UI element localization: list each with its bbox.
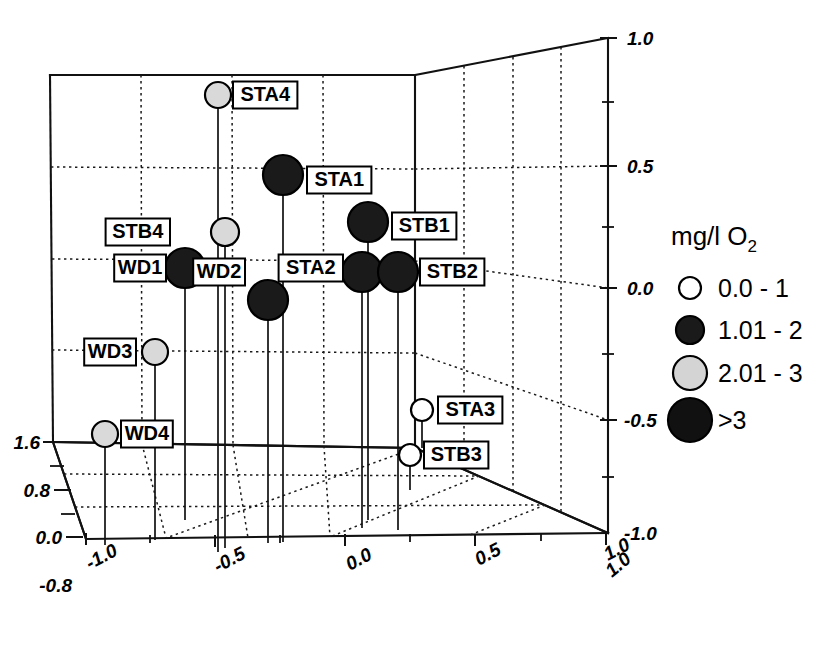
point-label-text: STB2 [427,260,478,282]
point-label-wd3: WD3 [84,339,136,366]
legend-title-main: mg/l O [671,221,748,251]
floor-gridline-d1 [142,444,166,538]
legend: mg/l O2 0.0 - 11.01 - 22.01 - 3>3 [668,221,803,442]
floor-gridline-r3 [470,505,545,535]
ticklabel-x--0.5: -0.5 [210,542,249,576]
legend-label-1: 1.01 - 2 [718,316,803,344]
point-label-text: WD4 [125,422,170,444]
legend-marker-3 [668,398,712,442]
floor-gridline-d3 [324,446,330,537]
point-label-text: STA2 [286,256,336,278]
legend-label-3: >3 [718,406,747,434]
legend-entry-0[interactable]: 0.0 - 1 [679,274,789,302]
ticklabel-z--1.0: -1.0 [624,523,657,544]
point-label-sta4: STA4 [233,82,297,109]
point-label-text: STB3 [431,443,482,465]
data-point-wd4[interactable] [92,421,118,447]
point-label-stb2: STB2 [420,259,484,286]
legend-marker-1 [676,316,704,344]
data-point-stb2[interactable] [378,252,418,292]
data-point-sta1[interactable] [263,155,303,195]
legend-title-subscript: 2 [748,237,757,256]
legend-marker-0 [679,277,701,299]
point-label-sta1: STA1 [307,167,371,194]
data-point-sta2[interactable] [342,252,382,292]
point-label-stb1: STB1 [392,213,456,240]
point-label-sta2: STA2 [279,255,343,282]
floor-gridline-d2 [233,445,248,538]
legend-label-2: 2.01 - 3 [718,359,803,387]
legend-entry-2[interactable]: 2.01 - 3 [673,356,803,390]
floor-gridline-r1 [166,448,415,538]
point-label-text: STB1 [399,214,450,236]
data-point-sta4[interactable] [205,82,231,108]
point-label-text: WD3 [88,340,132,362]
ticklabel-z-0.0: 0.0 [627,278,654,299]
data-point-stb1[interactable] [348,202,388,242]
scatter3d-canvas: 1.0 0.5 0.0 -0.5 -1.0 1.6 0.8 0.0 -0.8 -… [0,0,823,650]
legend-marker-2 [673,356,707,390]
data-points-layer: STA4STA1STB4STB1WD1WD2STA2STB2WD3STA3STB… [84,82,502,553]
data-point-stb4[interactable] [211,218,239,246]
ticklabel-left-0.8: 0.8 [24,480,51,501]
ticklabel-x--1.0: -1.0 [82,539,121,573]
floor-panel [53,442,608,539]
ticklabel-x-0.5: 0.5 [471,538,505,569]
legend-label-0: 0.0 - 1 [718,274,789,302]
legend-entry-3[interactable]: >3 [668,398,747,442]
ticklabel-x-0.0: 0.0 [342,543,376,574]
scatter3d-figure: 1.0 0.5 0.0 -0.5 -1.0 1.6 0.8 0.0 -0.8 -… [0,0,823,650]
ticklabel-left-0.0: 0.0 [36,527,63,548]
point-label-text: WD1 [118,256,162,278]
point-label-sta3: STA3 [438,397,502,424]
data-point-wd3[interactable] [142,339,168,365]
data-point-sta3[interactable] [411,399,433,421]
ticklabel-z--0.5: -0.5 [624,410,657,431]
floor-gridline-x1 [64,474,479,476]
floor-front-edge [86,533,608,539]
legend-entries: 0.0 - 11.01 - 22.01 - 3>3 [668,274,803,442]
point-label-wd2: WD2 [193,259,245,286]
ticklabel-z-0.5: 0.5 [627,156,654,177]
legend-entry-1[interactable]: 1.01 - 2 [676,316,803,344]
point-label-text: STA4 [240,83,291,105]
data-point-stb3[interactable] [399,444,421,466]
bottom-axis [86,533,606,547]
point-label-text: WD2 [197,260,241,282]
point-label-text: STA3 [445,398,495,420]
point-label-stb3: STB3 [424,442,488,469]
data-point-wd2[interactable] [248,280,288,320]
point-label-wd1: WD1 [114,255,166,282]
floor-gridline-x2 [75,505,545,507]
point-label-stb4: STB4 [106,219,170,246]
legend-title: mg/l O2 [671,221,757,256]
point-label-text: STB4 [112,220,164,242]
right-wall-top-edge [415,38,608,75]
ticklabel-z-1.0: 1.0 [627,28,654,49]
rightwall-gridline-h1 [415,166,608,169]
ticklabel-left-1.6: 1.6 [14,432,41,453]
ticklabel-left--0.8: -0.8 [39,575,72,596]
point-label-text: STA1 [314,168,364,190]
point-label-wd4: WD4 [121,421,173,448]
